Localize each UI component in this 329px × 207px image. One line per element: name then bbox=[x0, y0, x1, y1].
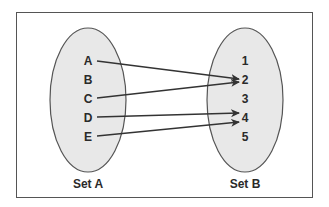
set-b-element: 4 bbox=[242, 111, 249, 125]
set-b-element: 3 bbox=[242, 92, 249, 106]
set-a-element: E bbox=[84, 130, 92, 144]
set-a-element: B bbox=[84, 73, 93, 87]
set-a-element: D bbox=[84, 111, 93, 125]
mapping-diagram: A B C D E 1 2 3 4 5 Set A Set B bbox=[0, 0, 329, 207]
set-b-element: 5 bbox=[242, 130, 249, 144]
set-b-element: 2 bbox=[242, 73, 249, 87]
set-b-element: 1 bbox=[242, 54, 249, 68]
set-b-label: Set B bbox=[230, 177, 261, 191]
set-a-element: A bbox=[84, 54, 93, 68]
set-a-label: Set A bbox=[73, 177, 104, 191]
set-a-element: C bbox=[84, 92, 93, 106]
